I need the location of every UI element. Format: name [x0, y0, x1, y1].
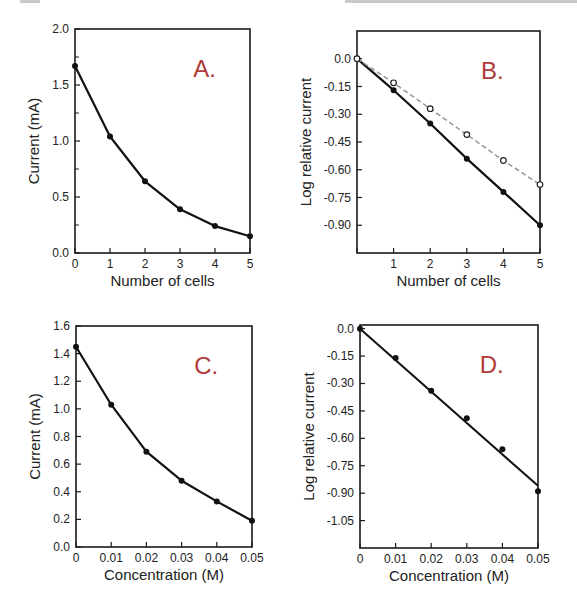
x-tick-label: 1: [390, 257, 397, 271]
y-tick-label: 1.5: [52, 78, 69, 92]
y-tick-label: 0.8: [53, 430, 70, 444]
data-point-open: [464, 132, 470, 138]
x-tick-label: 0: [357, 552, 364, 566]
y-tick-label: 1.0: [53, 402, 70, 416]
x-tick-label: 3: [177, 257, 184, 271]
chart-panel-d: 0.0-0.15-0.30-0.45-0.60-0.75-0.90-1.0500…: [300, 322, 550, 584]
x-tick-label: 0: [72, 257, 79, 271]
y-tick-label: 0.0: [334, 52, 351, 66]
x-tick-label: 0.04: [491, 552, 515, 566]
x-axis-title: Concentration (M): [389, 567, 509, 584]
data-point: [212, 223, 218, 229]
x-tick-label: 5: [537, 257, 544, 271]
data-point: [393, 355, 399, 361]
y-tick-label: -0.60: [327, 431, 355, 445]
data-point: [535, 488, 541, 494]
x-axis-title: Number of cells: [396, 272, 500, 289]
data-point-open: [391, 80, 397, 86]
x-tick-label: 0.02: [135, 551, 159, 565]
y-tick-label: 1.4: [53, 347, 70, 361]
data-point: [73, 344, 79, 350]
x-tick-label: 1: [107, 257, 114, 271]
x-tick-label: 0.03: [170, 551, 194, 565]
data-point: [143, 449, 149, 455]
y-tick-label: -0.30: [324, 107, 352, 121]
x-tick-label: 2: [427, 257, 434, 271]
series-line: [75, 66, 250, 236]
data-point: [247, 233, 253, 239]
x-axis-title: Concentration (M): [104, 566, 224, 583]
y-tick-label: -0.90: [324, 218, 352, 232]
data-point: [108, 402, 114, 408]
panel-label: D.: [480, 351, 504, 378]
y-tick-label: 0.5: [52, 190, 69, 204]
data-point: [357, 326, 363, 332]
y-tick-label: 1.6: [53, 319, 70, 333]
data-point: [500, 189, 506, 195]
data-point: [179, 478, 185, 484]
data-point: [391, 87, 397, 93]
plot-frame: [360, 325, 538, 548]
data-point: [214, 498, 220, 504]
data-point: [428, 388, 434, 394]
data-point: [177, 206, 183, 212]
data-point: [499, 446, 505, 452]
data-point: [249, 518, 255, 524]
y-tick-label: -0.15: [324, 80, 352, 94]
data-point-open: [427, 106, 433, 112]
series-line-dashed: [357, 59, 540, 185]
data-point: [142, 178, 148, 184]
y-tick-label: 1.0: [52, 134, 69, 148]
data-point: [107, 134, 113, 140]
x-tick-label: 5: [247, 257, 254, 271]
y-tick-label: 0.2: [53, 512, 70, 526]
data-point: [464, 156, 470, 162]
panel-label: A.: [193, 55, 216, 82]
x-tick-label: 4: [212, 257, 219, 271]
x-tick-label: 2: [142, 257, 149, 271]
y-tick-label: -0.15: [327, 349, 355, 363]
y-axis-title: Current (mA): [26, 393, 43, 480]
chart-panel-c: 0.00.20.40.60.81.01.21.41.600.010.020.03…: [26, 319, 264, 583]
y-tick-label: 0.0: [53, 540, 70, 554]
data-point: [537, 222, 543, 228]
y-tick-label: 0.6: [53, 457, 70, 471]
figure: 0.00.51.01.52.0012345Number of cellsCurr…: [0, 0, 577, 605]
series-line: [76, 347, 252, 521]
y-tick-label: 1.2: [53, 374, 70, 388]
x-tick-label: 0.01: [384, 552, 408, 566]
x-tick-label: 0.05: [240, 551, 264, 565]
x-tick-label: 0.02: [420, 552, 444, 566]
data-point: [427, 121, 433, 127]
y-tick-label: -0.45: [324, 135, 352, 149]
x-tick-label: 4: [500, 257, 507, 271]
chart-panel-b: 0.0-0.15-0.30-0.45-0.60-0.75-0.9012345Nu…: [297, 31, 544, 289]
chart-panel-a: 0.00.51.01.52.0012345Number of cellsCurr…: [25, 22, 254, 289]
x-tick-label: 3: [463, 257, 470, 271]
x-tick-label: 0.03: [455, 552, 479, 566]
x-tick-label: 0: [73, 551, 80, 565]
y-tick-label: -1.05: [327, 514, 355, 528]
data-point: [464, 415, 470, 421]
series-line: [357, 59, 540, 226]
y-tick-label: -0.75: [324, 191, 352, 205]
data-point-open: [537, 182, 543, 188]
plot-frame: [75, 29, 250, 253]
y-axis-title: Current (mA): [25, 98, 42, 185]
plot-frame: [76, 326, 252, 547]
x-tick-label: 0.04: [205, 551, 229, 565]
x-axis-title: Number of cells: [110, 272, 214, 289]
y-tick-label: -0.45: [327, 404, 355, 418]
panel-label: B.: [481, 57, 504, 84]
x-tick-label: 0.05: [526, 552, 550, 566]
data-point: [72, 63, 78, 69]
y-tick-label: 2.0: [52, 22, 69, 36]
y-tick-label: 0.4: [53, 485, 70, 499]
y-tick-label: -0.75: [327, 459, 355, 473]
y-tick-label: 0.0: [337, 322, 354, 336]
y-axis-title: Log relative current: [300, 371, 317, 500]
data-point-open: [501, 158, 507, 164]
panel-label: C.: [194, 352, 218, 379]
data-point-open: [354, 56, 360, 62]
y-tick-label: -0.60: [324, 163, 352, 177]
